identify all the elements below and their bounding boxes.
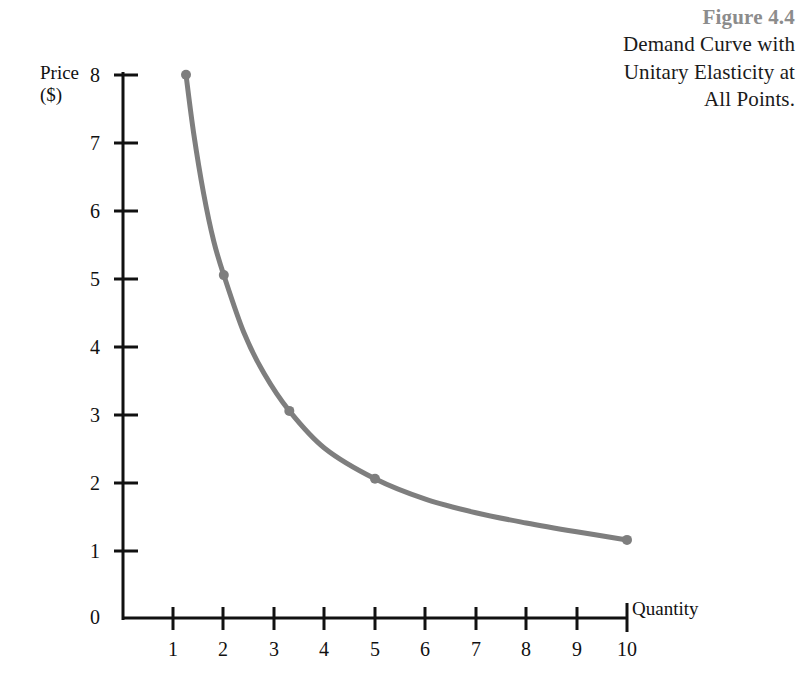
x-tick-label-10: 10 [614,638,640,661]
y-tick-label-1: 1 [78,540,100,563]
x-tick-label-9: 9 [564,638,590,661]
x-tick-label-5: 5 [362,638,388,661]
demand-curve-line [186,75,627,540]
x-tick-label-4: 4 [311,638,337,661]
x-tick-label-7: 7 [463,638,489,661]
x-tick-label-1: 1 [160,638,186,661]
demand-point-5 [622,535,632,545]
x-tick-label-6: 6 [412,638,438,661]
y-tick-label-5: 5 [78,268,100,291]
y-tick-label-8: 8 [78,64,100,87]
figure-page: Figure 4.4 Demand Curve with Unitary Ela… [0,0,807,687]
y-tick-label-4: 4 [78,336,100,359]
y-tick-label-7: 7 [78,132,100,155]
demand-point-4 [370,474,380,484]
y-tick-label-2: 2 [78,472,100,495]
demand-point-2 [219,270,229,280]
y-tick-label-6: 6 [78,200,100,223]
y-tick-label-3: 3 [78,404,100,427]
demand-curve-markers [181,70,632,545]
x-tick-label-8: 8 [513,638,539,661]
demand-point-3 [284,406,294,416]
x-tick-label-2: 2 [210,638,236,661]
demand-point-1 [181,70,191,80]
y-axis-ticks [114,75,138,551]
demand-curve-chart [0,0,807,687]
x-tick-label-3: 3 [261,638,287,661]
y-tick-label-0: 0 [78,606,100,629]
